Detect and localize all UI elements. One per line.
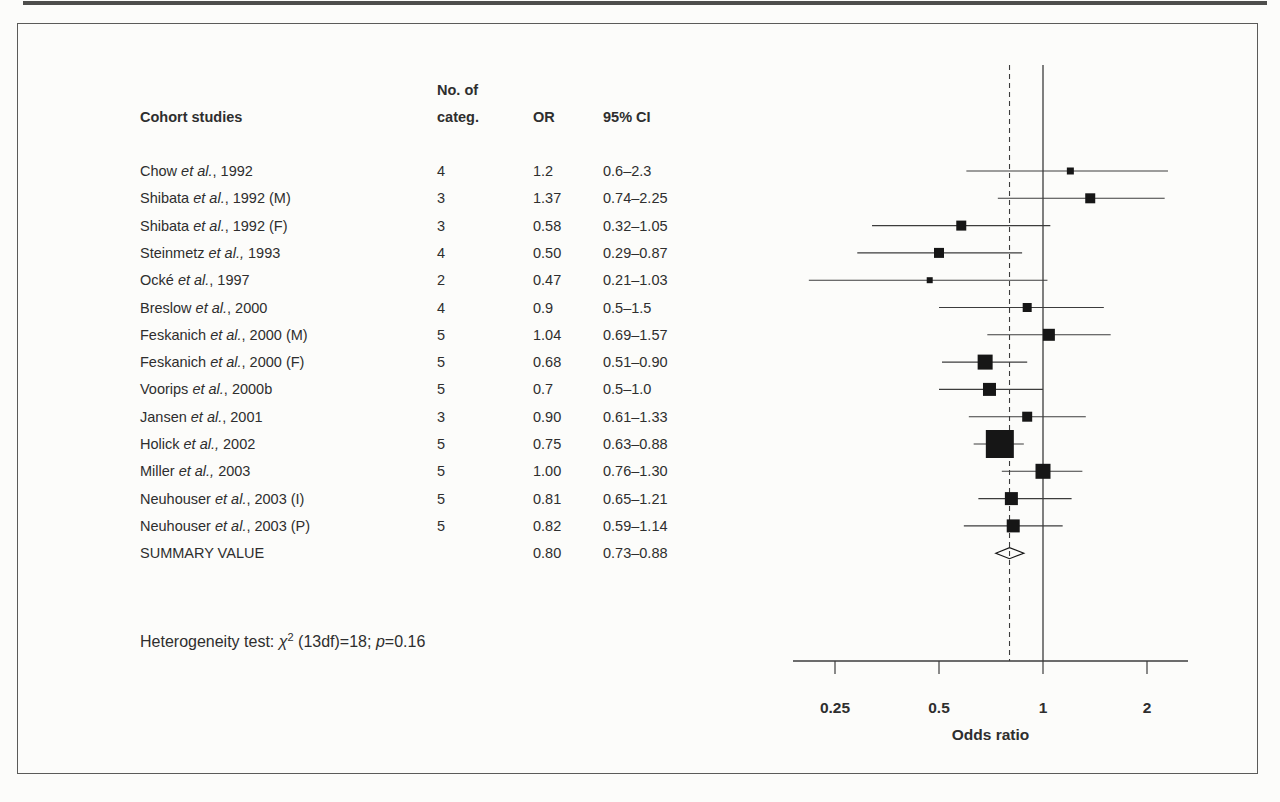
or-square — [934, 248, 944, 258]
x-axis-tick-label: 2 — [1143, 699, 1152, 716]
or-square — [1085, 193, 1095, 203]
x-axis-title: Odds ratio — [952, 726, 1030, 743]
or-square — [978, 355, 993, 370]
or-square — [1005, 492, 1018, 505]
or-square — [1022, 412, 1032, 422]
or-square — [1067, 168, 1074, 175]
or-square — [983, 383, 996, 396]
or-square — [956, 221, 966, 231]
or-square — [1007, 519, 1020, 532]
or-square — [1036, 464, 1051, 479]
or-square — [1023, 303, 1032, 312]
or-square — [927, 277, 933, 283]
or-square — [986, 430, 1014, 458]
x-axis-tick-label: 0.5 — [928, 699, 950, 716]
forest-plot: 0.250.512Odds ratio — [0, 0, 1280, 802]
or-square — [1043, 329, 1055, 341]
x-axis-tick-label: 0.25 — [820, 699, 851, 716]
x-axis-tick-label: 1 — [1039, 699, 1048, 716]
